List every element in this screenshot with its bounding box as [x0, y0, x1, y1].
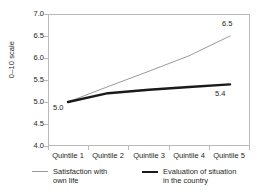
series-line-satisfaction-with-own-life [68, 36, 230, 102]
chart-legend: Satisfaction with own life Evaluation of… [32, 167, 258, 193]
line-chart: 0–10 scale 7.0 6.5 6.0 5.5 5.0 4.5 4.0 5… [0, 0, 263, 196]
series-plot [48, 14, 250, 146]
legend-label-evaluation-of-situation-in-the-country: Evaluation of situation in the country [163, 167, 236, 185]
point-label-satisfaction-end: 6.5 [222, 20, 232, 28]
legend-label-line-1: Evaluation of situation [163, 167, 236, 176]
legend-label-line-1: Satisfaction with [53, 167, 107, 176]
legend-item-satisfaction-with-own-life: Satisfaction with own life [32, 167, 142, 185]
point-label-evaluation-end: 5.4 [215, 90, 225, 98]
legend-line-swatch-icon [32, 171, 48, 172]
x-tick-label-quintile-2: Quintile 2 [86, 151, 130, 160]
x-tick-label-quintile-1: Quintile 1 [46, 151, 90, 160]
y-tick-label-7-0: 7.0 [22, 10, 44, 18]
y-tick-label-5-0: 5.0 [22, 98, 44, 106]
y-tick-label-6-5: 6.5 [22, 32, 44, 40]
x-tick-mark [169, 146, 170, 150]
legend-line-swatch-icon [142, 171, 158, 173]
x-tick-mark [128, 146, 129, 150]
x-tick-label-quintile-3: Quintile 3 [127, 151, 171, 160]
x-tick-label-quintile-5: Quintile 5 [207, 151, 251, 160]
x-tick-mark [48, 146, 49, 150]
legend-item-evaluation-of-situation-in-the-country: Evaluation of situation in the country [142, 167, 258, 185]
x-tick-mark [88, 146, 89, 150]
y-axis-title: 0–10 scale [7, 25, 16, 95]
legend-label-satisfaction-with-own-life: Satisfaction with own life [53, 167, 107, 185]
legend-label-line-2: own life [53, 176, 107, 185]
legend-label-line-2: in the country [163, 176, 236, 185]
x-tick-mark [249, 146, 250, 150]
y-tick-label-4-0: 4.0 [22, 142, 44, 150]
x-tick-label-quintile-4: Quintile 4 [167, 151, 211, 160]
x-tick-mark [209, 146, 210, 150]
y-tick-label-6-0: 6.0 [22, 54, 44, 62]
point-label-start: 5.0 [53, 104, 63, 112]
series-line-evaluation-of-situation-in-the-country [68, 84, 230, 102]
y-tick-label-5-5: 5.5 [22, 76, 44, 84]
y-tick-label-4-5: 4.5 [22, 120, 44, 128]
